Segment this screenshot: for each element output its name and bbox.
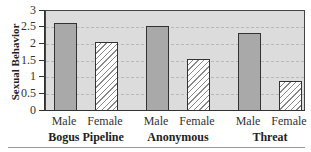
y-tick xyxy=(39,60,44,61)
bar-bogus-female xyxy=(95,42,118,110)
y-tick-label: 1 xyxy=(30,70,36,82)
bar-bogus-male xyxy=(54,23,77,110)
x-label: Female xyxy=(264,114,311,129)
y-tick-label: 2 xyxy=(30,37,36,49)
x-label: Female xyxy=(80,114,130,129)
plot-area xyxy=(45,10,305,110)
gridline xyxy=(46,94,304,95)
x-label: Female xyxy=(172,114,222,129)
gridline xyxy=(46,27,304,28)
y-tick xyxy=(39,10,44,11)
y-tick xyxy=(39,26,44,27)
y-tick-label: 3 xyxy=(30,4,36,16)
y-tick-label: 2.5 xyxy=(21,20,36,32)
gridline xyxy=(46,61,304,62)
y-tick xyxy=(39,110,44,111)
gridline xyxy=(46,44,304,45)
y-tick-label: 0.5 xyxy=(21,87,36,99)
y-tick-label: 0 xyxy=(30,104,36,116)
bar-anonymous-female xyxy=(187,59,210,110)
bar-anonymous-male xyxy=(146,26,169,110)
y-tick-label: 1.5 xyxy=(21,54,36,66)
y-axis-label: Sexual Behavior xyxy=(9,12,21,112)
x-axis xyxy=(44,110,305,111)
y-tick xyxy=(39,43,44,44)
y-tick xyxy=(39,76,44,77)
bar-threat-male xyxy=(238,33,261,110)
bar-threat-female xyxy=(279,81,302,110)
y-axis xyxy=(44,10,45,111)
gridline xyxy=(46,77,304,78)
bottom-rule xyxy=(8,147,305,148)
y-tick xyxy=(39,93,44,94)
group-label: Threat xyxy=(215,130,311,145)
